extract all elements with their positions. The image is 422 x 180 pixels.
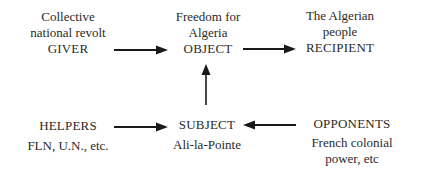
arrow-opponents-to-subject: [243, 121, 296, 130]
arrow-subject-to-object: [202, 64, 211, 105]
arrow-object-to-recipient: [243, 45, 296, 54]
arrow-helpers-to-subject: [114, 123, 168, 132]
arrows-layer: [0, 0, 422, 180]
arrow-giver-to-object: [114, 46, 168, 55]
